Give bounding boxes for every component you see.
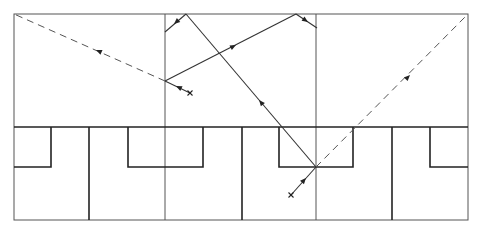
x-marker-icon <box>188 91 193 96</box>
ray-reflection-diagram <box>0 0 480 232</box>
outer-frame <box>14 14 468 220</box>
arrow-icon <box>404 75 410 81</box>
arrow-icon <box>302 17 308 22</box>
arrow-icon <box>174 18 180 24</box>
recess <box>430 127 468 167</box>
upper-reflect-1-ray <box>165 14 296 81</box>
lattice-structure <box>14 14 468 220</box>
direction-arrows <box>96 17 410 185</box>
x-marker-icon <box>289 193 294 198</box>
recess <box>14 127 51 167</box>
arrow-icon <box>96 50 103 55</box>
light-rays <box>14 14 468 195</box>
upper-virtual-ray <box>14 14 165 81</box>
